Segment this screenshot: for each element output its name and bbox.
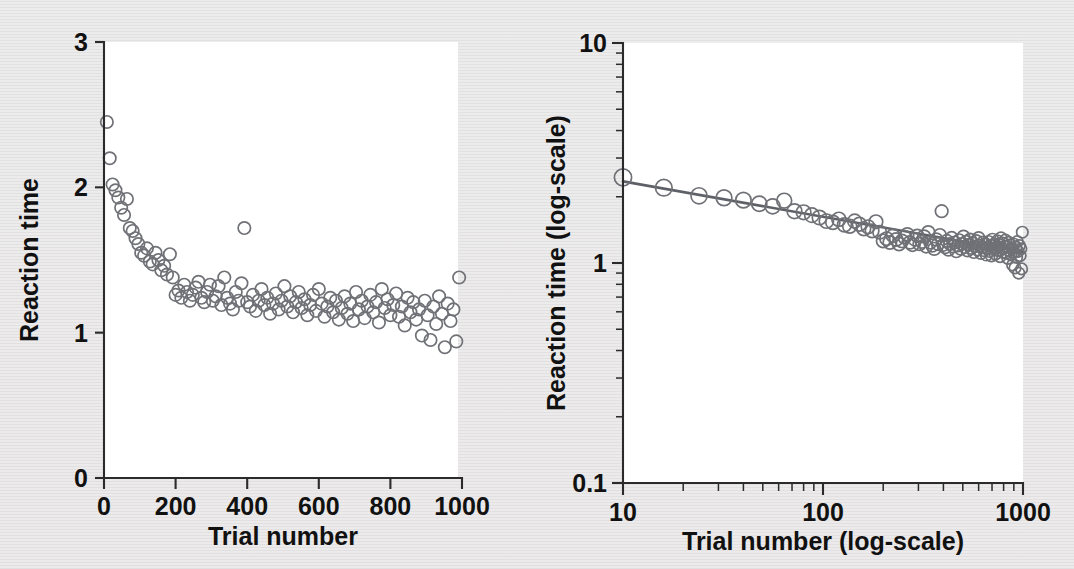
right-x-ticks: [623, 483, 1023, 495]
right-y-ticklabels: 0.1110: [572, 29, 607, 497]
right-y-ticks: [612, 43, 623, 483]
y-ticklabel: 1: [74, 319, 88, 347]
left-y-ticks: [95, 42, 104, 478]
y-ticklabel: 2: [74, 173, 88, 201]
x-ticklabel: 100: [802, 498, 844, 526]
x-ticklabel: 1000: [995, 498, 1051, 526]
y-ticklabel: 3: [74, 28, 88, 56]
x-ticklabel: 200: [155, 492, 197, 520]
right-x-ticklabels: 101001000: [609, 498, 1051, 526]
left-y-axis-title: Reaction time: [15, 178, 43, 342]
left-x-ticklabels: 02004006008001000: [97, 492, 490, 520]
y-ticklabel: 1: [593, 249, 607, 277]
y-ticklabel: 10: [579, 29, 607, 57]
y-ticklabel: 0: [74, 464, 88, 492]
y-ticklabel: 0.1: [572, 469, 607, 497]
linear-scale-panel: 0123 02004006008001000 Trial number Reac…: [15, 28, 490, 550]
x-ticklabel: 0: [97, 492, 111, 520]
x-ticklabel: 1000: [434, 492, 490, 520]
two-panel-scatter-figure: 0123 02004006008001000 Trial number Reac…: [0, 0, 1074, 569]
right-y-axis-title: Reaction time (log-scale): [542, 115, 570, 411]
right-x-axis-title: Trial number (log-scale): [682, 527, 964, 555]
x-ticklabel: 800: [370, 492, 412, 520]
log-log-panel: 0.1110 101001000 Trial number (log-scale…: [542, 29, 1051, 555]
right-plot-background: [623, 43, 1023, 483]
x-ticklabel: 400: [226, 492, 268, 520]
x-ticklabel: 10: [609, 498, 637, 526]
left-y-ticklabels: 0123: [74, 28, 88, 492]
figure-container: 0123 02004006008001000 Trial number Reac…: [0, 0, 1074, 569]
left-x-axis-title: Trial number: [208, 522, 358, 550]
x-ticklabel: 600: [298, 492, 340, 520]
left-x-ticks: [104, 478, 462, 489]
